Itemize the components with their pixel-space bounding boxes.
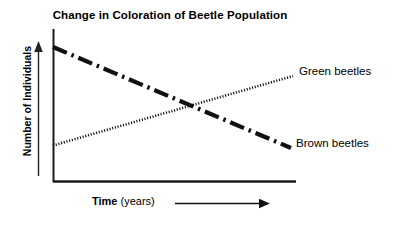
series-label-brown-beetles: Brown beetles — [296, 137, 369, 149]
beetle-population-chart: Change in Coloration of Beetle Populatio… — [0, 0, 395, 227]
x-axis-label-units: (years) — [117, 195, 154, 207]
x-axis-label: Time (years) — [92, 195, 155, 207]
x-axis-label-bold: Time — [92, 195, 117, 207]
x-axis-arrow-icon — [175, 199, 270, 208]
series-label-green-beetles: Green beetles — [299, 65, 371, 77]
series-line-brown-beetles — [53, 47, 291, 148]
plot-area — [0, 0, 395, 227]
y-axis-arrow-icon — [34, 41, 43, 176]
